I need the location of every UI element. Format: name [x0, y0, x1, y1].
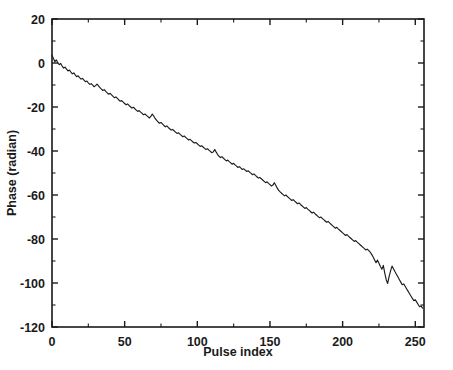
y-tick-label: 20 — [31, 13, 45, 27]
phase-vs-pulse-index-line-chart: 050100150200250 200-20-40-60-80-100-120 … — [0, 0, 453, 370]
y-tick-label: 0 — [38, 57, 45, 71]
y-tick-label: -100 — [20, 277, 45, 291]
y-tick-label: -20 — [27, 101, 45, 115]
y-tick-label: -120 — [20, 321, 45, 335]
x-tick-label: 250 — [405, 335, 426, 349]
plot-frame — [52, 19, 424, 327]
x-tick-label: 0 — [49, 335, 56, 349]
x-axis-ticks — [52, 19, 415, 327]
data-series-group — [52, 55, 423, 308]
chart-figure: 050100150200250 200-20-40-60-80-100-120 … — [0, 0, 453, 370]
x-tick-label: 200 — [332, 335, 353, 349]
x-axis-title: Pulse index — [203, 345, 273, 359]
y-tick-label: -60 — [27, 189, 45, 203]
y-axis-title: Phase (radian) — [5, 130, 19, 216]
y-tick-label: -40 — [27, 145, 45, 159]
y-axis-tick-labels: 200-20-40-60-80-100-120 — [20, 13, 45, 335]
y-tick-label: -80 — [27, 233, 45, 247]
phase-data-line — [52, 55, 423, 308]
x-tick-label: 50 — [118, 335, 132, 349]
y-axis-ticks — [52, 19, 424, 327]
